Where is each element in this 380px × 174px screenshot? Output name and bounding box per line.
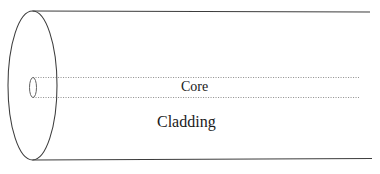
fiber-diagram-figure: Core Cladding <box>0 0 380 174</box>
cladding-label: Cladding <box>157 114 216 130</box>
cladding-end-face-ellipse <box>8 11 57 160</box>
cladding-bottom-surface-line <box>33 159 373 161</box>
core-end-face-ellipse <box>30 78 37 98</box>
core-label: Core <box>181 80 208 94</box>
cladding-top-surface-line <box>33 11 371 12</box>
